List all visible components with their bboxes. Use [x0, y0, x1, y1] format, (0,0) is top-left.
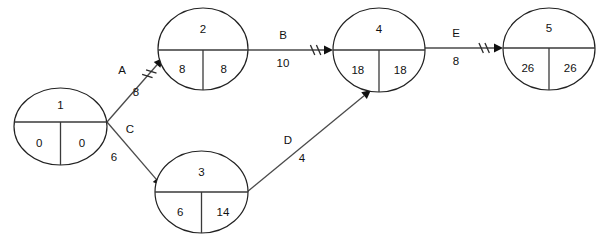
edge-duration-e: 8	[453, 55, 459, 67]
node-late-time-5: 26	[564, 62, 577, 74]
edge-a[interactable]: A8	[107, 58, 163, 122]
edge-label-d: D	[284, 134, 292, 146]
node-early-time-3: 6	[177, 206, 183, 218]
node-late-time-3: 14	[216, 206, 229, 218]
network-diagram-canvas: A8B10C6D4E8 10028836144181852626	[0, 0, 600, 243]
edge-label-a: A	[118, 64, 126, 76]
node-late-time-2: 8	[220, 63, 226, 75]
node-4[interactable]: 41818	[333, 8, 425, 92]
edge-label-e: E	[452, 27, 460, 39]
node-late-time-4: 18	[394, 64, 407, 76]
edge-label-c: C	[126, 123, 134, 135]
arrowhead-icon-b	[324, 46, 333, 55]
edge-duration-c: 6	[111, 151, 117, 163]
edge-e[interactable]: E8	[425, 27, 503, 67]
edge-tick-mark	[146, 70, 156, 73]
edge-b[interactable]: B10	[248, 29, 333, 69]
node-early-time-1: 0	[36, 137, 42, 149]
node-2[interactable]: 288	[158, 8, 248, 90]
node-early-time-2: 8	[179, 63, 185, 75]
node-id-4: 4	[376, 23, 383, 35]
nodes-layer: 10028836144181852626	[14, 8, 595, 233]
edge-c[interactable]: C6	[107, 122, 162, 186]
node-id-3: 3	[198, 166, 204, 178]
edge-duration-d: 4	[299, 152, 306, 164]
edge-label-b: B	[279, 29, 287, 41]
node-late-time-1: 0	[79, 137, 85, 149]
edge-duration-a: 8	[133, 86, 139, 98]
edge-d[interactable]: D4	[247, 90, 371, 192]
node-id-5: 5	[546, 22, 552, 34]
arrowhead-icon-e	[494, 44, 503, 53]
network-diagram-svg: A8B10C6D4E8 10028836144181852626	[0, 0, 600, 243]
edge-line-d	[247, 96, 364, 192]
node-early-time-4: 18	[351, 64, 364, 76]
edge-duration-b: 10	[277, 57, 290, 69]
node-id-1: 1	[57, 99, 63, 111]
node-1[interactable]: 100	[14, 88, 107, 165]
node-3[interactable]: 3614	[155, 151, 248, 233]
node-5[interactable]: 52626	[503, 8, 595, 90]
node-id-2: 2	[200, 23, 206, 35]
node-early-time-5: 26	[521, 62, 534, 74]
edge-tick-mark	[142, 74, 152, 77]
